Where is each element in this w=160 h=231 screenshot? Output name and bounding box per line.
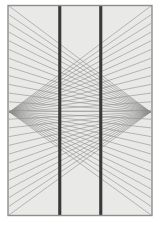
illusion-figure-root: Hering illusion — [0, 0, 160, 231]
hering-illusion-svg — [0, 0, 160, 231]
right-vertical-bar — [99, 6, 102, 215]
left-vertical-bar — [58, 6, 61, 215]
